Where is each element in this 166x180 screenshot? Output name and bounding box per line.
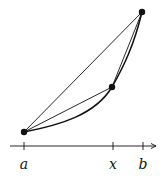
point-b: [139, 9, 145, 15]
point-a: [21, 129, 27, 135]
tick-label-x: x: [109, 156, 117, 172]
tick-label-a: a: [20, 156, 28, 172]
tick-label-b: b: [139, 156, 148, 172]
chord-x-b: [112, 12, 142, 87]
convexity-diagram: a x b: [0, 0, 166, 180]
chord-a-x: [24, 87, 112, 132]
point-x: [109, 84, 115, 90]
